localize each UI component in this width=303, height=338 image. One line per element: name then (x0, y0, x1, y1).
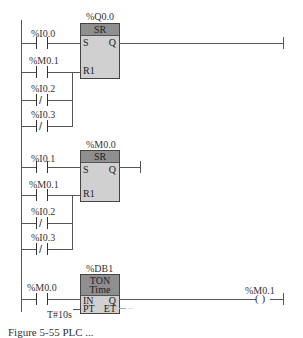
block-type: SR (81, 24, 119, 36)
pin-s: S (83, 38, 89, 48)
no-contact[interactable] (36, 66, 48, 78)
wire (48, 100, 72, 101)
nc-contact[interactable]: / (36, 217, 48, 229)
wire (48, 223, 72, 224)
nc-contact[interactable]: / (36, 243, 48, 255)
pin-pt: PT (83, 304, 95, 314)
wire (22, 126, 36, 127)
wire (48, 72, 80, 73)
pin-s: S (83, 165, 89, 175)
pin-q: Q (109, 165, 116, 175)
output-end (140, 161, 141, 173)
wire (22, 195, 36, 196)
et-wire (119, 308, 126, 309)
wire (270, 299, 283, 300)
pin-r1: R1 (83, 66, 95, 76)
wire (22, 249, 36, 250)
block-name-label: %Q0.0 (86, 12, 114, 22)
no-contact[interactable] (36, 37, 48, 49)
figure-caption: Figure 5-55 PLC ... (8, 326, 94, 338)
preset-time-value: T#10s (47, 310, 72, 320)
block-type: SR (81, 151, 119, 163)
output-coil-icon[interactable]: ( ) (255, 293, 265, 304)
wire (22, 72, 36, 73)
no-contact[interactable] (36, 293, 48, 305)
or-branch-wire (72, 72, 73, 127)
wire (22, 167, 36, 168)
sr-block[interactable]: SR S Q R1 (80, 150, 120, 202)
wire (48, 249, 72, 250)
contact-label: %I0.3 (31, 110, 55, 120)
pt-wire (73, 309, 80, 310)
sr-block[interactable]: SR S Q R1 (80, 23, 120, 79)
nc-contact[interactable]: / (36, 120, 48, 132)
output-wire (119, 299, 256, 300)
output-wire (119, 43, 283, 44)
nc-contact[interactable]: / (36, 94, 48, 106)
wire (22, 299, 36, 300)
block-name-label: %M0.0 (86, 140, 116, 150)
block-instance-label: %DB1 (86, 264, 113, 274)
wire (48, 299, 80, 300)
pin-r1: R1 (83, 189, 95, 199)
wire (48, 43, 80, 44)
pin-et: ET (104, 304, 116, 314)
wire (48, 167, 80, 168)
wire (48, 195, 80, 196)
right-rail-segment (283, 293, 284, 305)
contact-label: %M0.0 (27, 283, 57, 293)
wire (22, 223, 36, 224)
output-wire (119, 167, 140, 168)
wire (22, 43, 36, 44)
left-power-rail (21, 20, 22, 312)
no-contact[interactable] (36, 189, 48, 201)
pin-q: Q (109, 38, 116, 48)
contact-label: %I0.2 (31, 207, 55, 217)
or-branch-wire (72, 195, 73, 250)
contact-label: %M0.1 (29, 56, 59, 66)
wire (48, 126, 72, 127)
right-rail-segment (283, 37, 284, 49)
contact-label: %I0.3 (31, 233, 55, 243)
contact-label: %I0.2 (31, 84, 55, 94)
ton-timer-block[interactable]: TON Time IN Q PT ET (80, 274, 120, 314)
no-contact[interactable] (36, 161, 48, 173)
wire (22, 100, 36, 101)
elapsed-time-value: ... (127, 302, 133, 312)
